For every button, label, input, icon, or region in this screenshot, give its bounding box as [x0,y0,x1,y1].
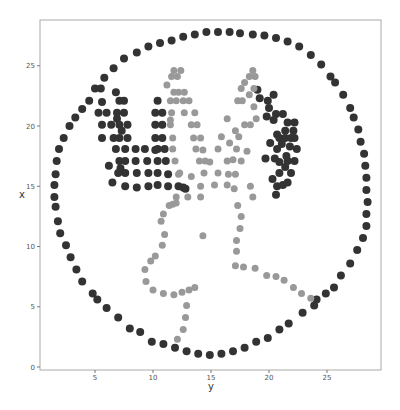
data-point [250,85,257,92]
data-point [252,265,259,272]
data-point [182,185,190,193]
data-point [144,182,152,190]
data-point [174,73,181,80]
data-point [177,67,184,74]
data-point [298,290,305,297]
data-point [317,61,325,69]
data-point [85,97,93,105]
data-point [263,112,271,120]
data-point [180,326,187,333]
data-point [169,145,176,152]
data-point [67,253,75,261]
y-tick-label: 10 [26,243,35,251]
data-point [184,194,191,201]
data-point [170,291,177,298]
data-point [160,290,167,297]
data-point [362,174,370,182]
data-point [350,114,358,122]
data-point [215,170,222,177]
data-point [232,171,239,178]
data-point [167,117,174,124]
scatter-chart: 510152025 0510152025 y x [0,0,400,410]
data-point [124,134,132,142]
data-point [171,344,179,352]
data-point [226,28,234,36]
data-point [232,127,239,134]
data-point [164,182,172,190]
data-point [273,145,281,153]
data-point [197,135,204,142]
data-point [120,55,128,63]
data-point [199,232,206,239]
data-point [100,74,108,82]
data-point [307,295,314,302]
data-point [272,191,280,199]
data-point [275,326,283,334]
data-point [186,97,193,104]
data-point [133,184,141,192]
data-point [154,97,162,105]
data-point [330,284,338,292]
data-point [249,30,257,38]
data-point [151,121,159,129]
data-point [126,324,134,332]
data-point [240,264,247,271]
data-point [233,248,240,255]
data-point [249,194,256,201]
data-point [72,265,80,273]
data-point [121,169,129,177]
data-point [114,314,122,322]
data-point [364,198,372,206]
data-point [252,338,260,346]
data-point [197,183,204,190]
data-point [132,157,140,165]
data-point [224,115,231,122]
data-point [172,157,179,164]
data-point [124,121,132,129]
data-point [191,109,198,116]
data-point [179,33,187,41]
data-point [148,338,156,346]
data-point [295,43,303,51]
data-point [262,155,270,163]
data-point [159,340,167,348]
data-point [322,290,330,298]
data-point [346,259,354,267]
data-point [158,121,166,129]
data-point [360,150,368,158]
data-point [239,97,246,104]
data-point [269,175,277,183]
data-point [53,157,61,165]
data-point [229,347,237,355]
data-point [105,162,113,170]
y-tick-label: 5 [31,303,35,311]
data-point [250,103,257,110]
data-point [199,147,206,154]
data-point [293,145,301,153]
data-point [192,145,199,152]
data-point [247,121,254,128]
data-point [161,231,168,238]
data-point [181,109,188,116]
data-point [215,145,222,152]
data-point [182,314,189,321]
data-point [233,237,240,244]
data-point [50,193,58,201]
data-point [183,302,190,309]
data-point [181,89,188,96]
data-point [230,156,237,163]
data-point [167,97,174,104]
data-point [246,91,253,98]
data-point [275,169,283,177]
data-point [169,135,176,142]
data-point [112,145,120,153]
data-point [270,91,278,99]
data-point [286,143,294,151]
data-point [256,94,264,102]
data-point [66,122,74,130]
data-point [241,79,248,86]
data-point [151,134,159,142]
data-point [115,134,123,142]
data-point [224,182,231,189]
data-point [71,114,79,122]
